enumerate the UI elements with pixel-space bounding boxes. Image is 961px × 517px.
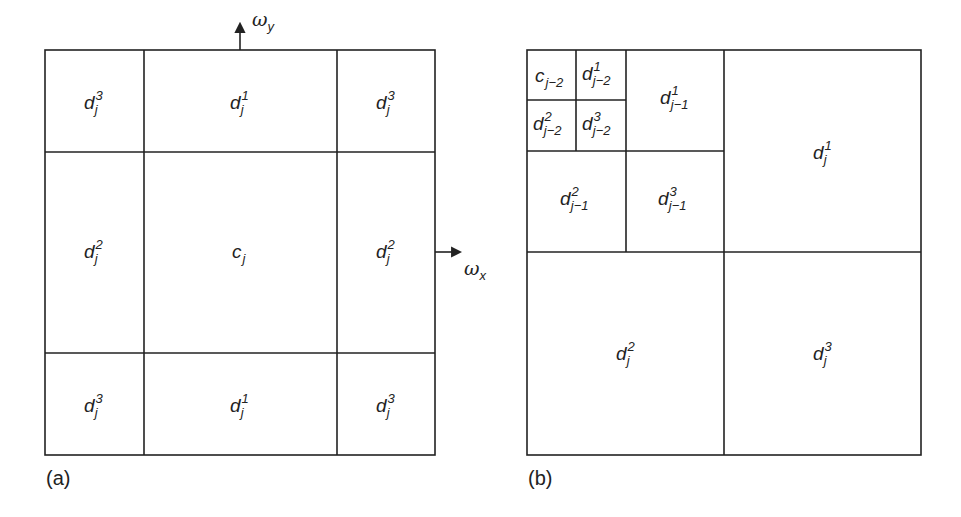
svg-text:d1j: d1j bbox=[813, 138, 832, 167]
cell-label: d2j bbox=[376, 237, 396, 266]
svg-text:d3j: d3j bbox=[376, 88, 396, 117]
svg-text:d3j: d3j bbox=[84, 88, 104, 117]
panel-b: cj−2 d1j−2 d2j−2 d3j−2 d1j−1 d2j−1 d3j−1… bbox=[527, 50, 921, 489]
panel-b-caption: (b) bbox=[528, 467, 552, 489]
svg-text:d3j: d3j bbox=[84, 391, 104, 420]
cell-label: d3j−1 bbox=[658, 184, 687, 213]
svg-text:d2j−2: d2j−2 bbox=[533, 109, 562, 138]
svg-text:d2j: d2j bbox=[616, 339, 636, 368]
omega-y-label: ωy bbox=[252, 8, 276, 34]
cell-label: d3j bbox=[84, 88, 104, 117]
svg-text:d1j−1: d1j−1 bbox=[660, 83, 689, 112]
svg-text:d2j: d2j bbox=[84, 237, 104, 266]
panel-a-caption: (a) bbox=[46, 467, 70, 489]
wavelet-diagram: ωy ωx d3j d1j d3j d2j cj d2j d3j d1j d3j bbox=[0, 0, 961, 517]
cell-label: d1j−2 bbox=[582, 59, 611, 88]
cell-label: d3j bbox=[376, 88, 396, 117]
omega-x-label: ωx bbox=[464, 257, 487, 283]
svg-text:cj−2: cj−2 bbox=[535, 65, 564, 90]
svg-text:d3j−1: d3j−1 bbox=[658, 184, 687, 213]
cell-label: d1j−1 bbox=[660, 83, 689, 112]
svg-text:d1j: d1j bbox=[230, 391, 249, 420]
svg-text:d1j−2: d1j−2 bbox=[582, 59, 611, 88]
cell-label: d2j bbox=[616, 339, 636, 368]
svg-text:cj: cj bbox=[232, 241, 247, 266]
cell-label: d3j bbox=[84, 391, 104, 420]
svg-text:d3j: d3j bbox=[813, 339, 833, 368]
svg-text:d2j−1: d2j−1 bbox=[560, 184, 589, 213]
svg-text:d2j: d2j bbox=[376, 237, 396, 266]
panel-a: ωy ωx d3j d1j d3j d2j cj d2j d3j d1j d3j bbox=[45, 8, 487, 489]
svg-text:d3j: d3j bbox=[376, 391, 396, 420]
svg-text:d1j: d1j bbox=[230, 88, 249, 117]
cell-label: cj−2 bbox=[535, 65, 564, 90]
cell-label: d1j bbox=[813, 138, 832, 167]
svg-text:d3j−2: d3j−2 bbox=[582, 109, 611, 138]
cell-label: d3j bbox=[813, 339, 833, 368]
cell-label: d2j−1 bbox=[560, 184, 589, 213]
cell-label: d2j bbox=[84, 237, 104, 266]
cell-label: cj bbox=[232, 241, 247, 266]
cell-label: d3j bbox=[376, 391, 396, 420]
cell-label: d2j−2 bbox=[533, 109, 562, 138]
cell-label: d1j bbox=[230, 88, 249, 117]
cell-label: d1j bbox=[230, 391, 249, 420]
cell-label: d3j−2 bbox=[582, 109, 611, 138]
